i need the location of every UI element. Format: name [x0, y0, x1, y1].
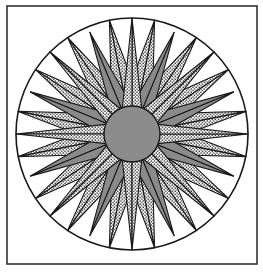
compass-center-disc — [104, 106, 160, 162]
quilt-block-illustration — [0, 0, 263, 273]
